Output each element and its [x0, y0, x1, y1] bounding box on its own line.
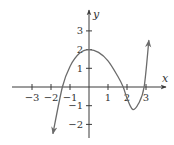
- y-tick-label: −2: [68, 119, 83, 130]
- y-tick-label: 3: [77, 25, 83, 36]
- y-tick-label: −1: [68, 100, 83, 111]
- x-tick-label: −3: [25, 92, 40, 103]
- x-tick-label: 3: [143, 92, 149, 103]
- x-axis-label: x: [162, 72, 169, 85]
- x-tick-label: −2: [44, 92, 59, 103]
- axes: [12, 10, 166, 138]
- x-tick-label: 1: [105, 92, 111, 103]
- plot-area: −3−2−1123−2−1123 xy: [0, 0, 174, 145]
- chart: −3−2−1123−2−1123 xy: [0, 0, 174, 145]
- ticks: −3−2−1123−2−1123: [25, 25, 150, 129]
- y-axis-label: y: [92, 8, 100, 21]
- y-tick-label: 1: [77, 63, 83, 74]
- axis-labels: xy: [92, 8, 169, 85]
